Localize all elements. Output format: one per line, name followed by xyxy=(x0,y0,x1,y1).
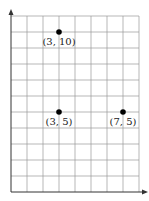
y-axis-arrow-icon xyxy=(9,9,14,15)
coordinate-grid-chart: (3, 10)(3, 5)(7, 5) xyxy=(0,0,149,201)
point-label: (3, 5) xyxy=(46,116,73,127)
point-label: (7, 5) xyxy=(110,116,137,127)
data-point xyxy=(120,109,126,115)
point-label: (3, 10) xyxy=(42,36,75,47)
x-axis-arrow-icon xyxy=(142,190,148,195)
data-point xyxy=(56,29,62,35)
data-point xyxy=(56,109,62,115)
